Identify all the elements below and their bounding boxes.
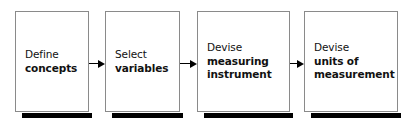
node-label-3: Devise measuring instrument — [198, 41, 276, 81]
node-label-3-line2: measuring — [207, 55, 272, 68]
process-flow-diagram: Define concepts Select variables Devise … — [0, 0, 416, 129]
node-shadow-3 — [204, 113, 293, 119]
arrow-head-3 — [297, 60, 304, 68]
node-shadow-4 — [311, 113, 401, 119]
arrow-shaft-2 — [180, 63, 190, 64]
flow-node-devise-measuring-instrument[interactable]: Devise measuring instrument — [197, 11, 290, 112]
arrow-node2-to-node3 — [180, 58, 197, 69]
arrow-shaft-3 — [290, 63, 297, 64]
arrow-head-2 — [190, 60, 197, 68]
node-shadow-2 — [112, 113, 183, 119]
node-label-2: Select variables — [106, 48, 172, 75]
node-label-3-line1: Devise — [207, 41, 272, 54]
node-label-1-line1: Define — [25, 48, 77, 61]
flow-node-define-concepts[interactable]: Define concepts — [15, 11, 89, 112]
node-label-1-line2: concepts — [25, 62, 77, 75]
node-label-4-line3: measurement — [314, 68, 395, 81]
node-shadow-1 — [22, 113, 92, 119]
node-label-4-line1: Devise — [314, 41, 395, 54]
node-label-4-line2: units of — [314, 55, 395, 68]
node-label-2-line1: Select — [115, 48, 168, 61]
flow-node-select-variables[interactable]: Select variables — [105, 11, 180, 112]
node-label-4: Devise units of measurement — [305, 41, 399, 81]
arrow-head-1 — [98, 60, 105, 68]
arrow-node1-to-node2 — [89, 58, 105, 69]
arrow-shaft-1 — [89, 63, 98, 64]
node-label-1: Define concepts — [16, 48, 81, 75]
arrow-node3-to-node4 — [290, 58, 304, 69]
node-label-2-line2: variables — [115, 62, 168, 75]
flow-node-devise-units-of-measurement[interactable]: Devise units of measurement — [304, 11, 398, 112]
node-label-3-line3: instrument — [207, 68, 272, 81]
